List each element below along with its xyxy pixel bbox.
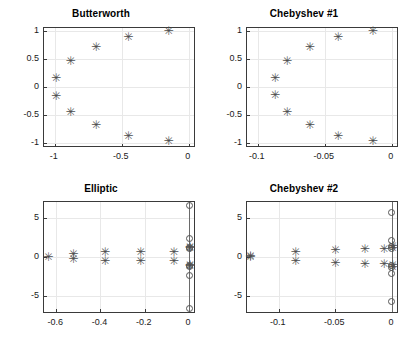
x-tick xyxy=(279,309,280,312)
y-tick-label: -5 xyxy=(204,290,242,300)
x-tick xyxy=(335,309,336,312)
x-tick-label: -0.05 xyxy=(324,317,345,327)
y-tick xyxy=(247,257,250,258)
zero-marker xyxy=(388,270,395,277)
y-tick-label: 0 xyxy=(204,251,242,261)
y-tick xyxy=(247,218,250,219)
pole-marker xyxy=(360,260,369,269)
x-tick-label: 0 xyxy=(388,317,393,327)
pole-zero-figure: Butterworth-1-0.5010.50-0.5-1Chebyshev #… xyxy=(0,0,405,347)
plot-axes-chebyshev2 xyxy=(246,201,398,313)
zero-marker xyxy=(388,209,395,216)
imaginary-axis-line xyxy=(392,202,393,312)
y-gridline xyxy=(247,218,397,219)
pole-marker xyxy=(291,257,300,266)
pole-marker xyxy=(360,245,369,254)
y-tick xyxy=(247,296,250,297)
pole-marker xyxy=(379,260,388,269)
pole-marker xyxy=(291,248,300,257)
y-gridline xyxy=(247,257,397,258)
x-tick-label: -0.1 xyxy=(270,317,286,327)
subplot-title-chebyshev2: Chebyshev #2 xyxy=(203,183,405,195)
subplot-chebyshev2: Chebyshev #2-0.1-0.05050-5 xyxy=(0,0,405,347)
zero-marker xyxy=(388,245,395,252)
pole-marker xyxy=(379,245,388,254)
zero-marker xyxy=(388,298,395,305)
y-tick-label: 5 xyxy=(204,212,242,222)
y-gridline xyxy=(247,296,397,297)
